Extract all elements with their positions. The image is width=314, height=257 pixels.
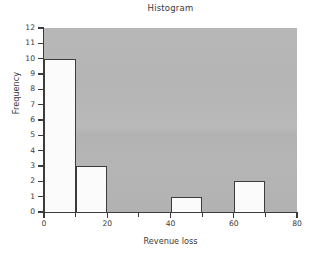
y-axis-label: Frequency [11,33,21,153]
x-tick-label: 0 [42,219,47,228]
y-tick-mark [38,165,43,166]
y-tick-label: 3 [0,161,35,170]
y-tick-mark [38,89,43,90]
y-tick-label: 0 [0,207,35,216]
histogram-bar [171,197,203,212]
x-tick-mark [233,213,234,218]
histogram-bar [76,166,108,212]
y-tick-mark [38,181,43,182]
x-minor-tick-mark [265,213,266,217]
y-tick-mark [38,27,43,28]
x-axis-label: Revenue loss [44,236,297,246]
y-tick-mark [38,73,43,74]
y-tick-mark [38,104,43,105]
x-tick-label: 40 [166,219,176,228]
x-tick-label: 80 [292,219,302,228]
x-tick-mark [296,213,297,218]
x-minor-tick-mark [75,213,76,217]
histogram-figure: Histogram 0123456789101112 020406080 Rev… [0,0,314,257]
y-tick-mark [38,135,43,136]
y-tick-mark [38,150,43,151]
x-minor-tick-mark [202,213,203,217]
x-tick-label: 20 [102,219,112,228]
x-tick-mark [107,213,108,218]
y-tick-mark [38,211,43,212]
x-tick-mark [170,213,171,218]
y-tick-mark [38,196,43,197]
y-tick-mark [38,58,43,59]
y-tick-label: 2 [0,176,35,185]
x-tick-label: 60 [229,219,239,228]
x-tick-mark [43,213,44,218]
y-tick-mark [38,119,43,120]
y-tick-mark [38,43,43,44]
histogram-bar [234,181,266,212]
x-minor-tick-mark [138,213,139,217]
y-tick-label: 12 [0,23,35,32]
y-tick-label: 1 [0,192,35,201]
histogram-bar [44,59,76,212]
chart-title: Histogram [44,3,297,13]
